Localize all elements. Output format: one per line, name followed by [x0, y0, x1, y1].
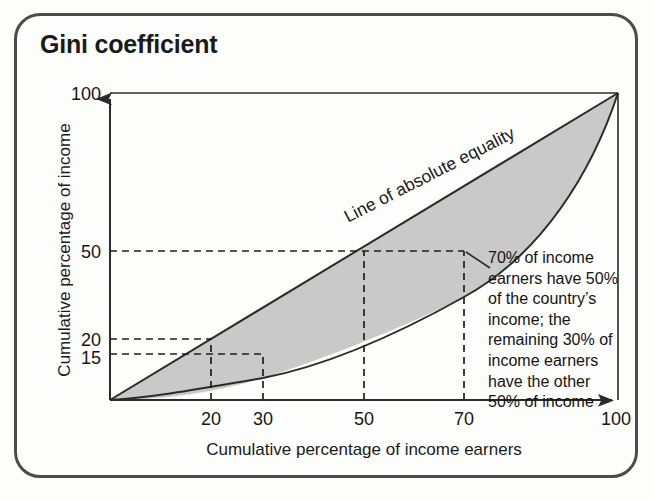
figure-page: Gini coefficient	[0, 0, 654, 501]
callout-line-4: income; the	[488, 310, 640, 331]
x-tick-label-70: 70	[454, 409, 474, 429]
x-tick-label-50: 50	[354, 409, 374, 429]
callout-line-6: income earners	[488, 351, 640, 372]
x-tick-label-30: 30	[253, 409, 273, 429]
y-axis-title: Cumulative percentage of income	[55, 123, 74, 376]
callout-line-2: earners have 50%	[488, 269, 640, 290]
y-tick-label-50: 50	[81, 242, 101, 262]
x-tick-label-20: 20	[201, 409, 221, 429]
callout-line-1: 70% of income	[488, 248, 640, 269]
y-tick-label-15: 15	[81, 348, 101, 368]
callout-line-3: of the country’s	[488, 289, 640, 310]
y-tick-label-100: 100	[71, 84, 101, 104]
callout-line-5: remaining 30% of	[488, 330, 640, 351]
callout-line-8: 50% of income	[488, 392, 640, 413]
y-tick-label-20: 20	[81, 330, 101, 350]
x-axis-title: Cumulative percentage of income earners	[206, 440, 522, 459]
callout-line-7: have the other	[488, 372, 640, 393]
callout-annotation: 70% of income earners have 50% of the co…	[488, 248, 640, 413]
